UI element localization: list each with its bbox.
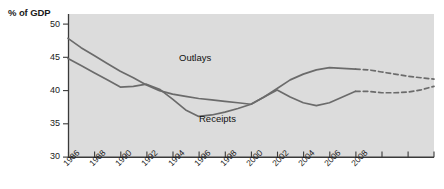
series-label-outlays: Outlays <box>179 52 211 63</box>
y-axis-title: % of GDP <box>8 7 50 18</box>
chart-figure: % of GDP 50 45 40 35 30 <box>0 0 444 189</box>
plot-area-background <box>68 14 434 157</box>
y-tick-label-45: 45 <box>34 52 60 62</box>
y-tick-label-30: 30 <box>34 151 60 161</box>
y-tick-label-35: 35 <box>34 118 60 128</box>
y-tick-marks <box>63 24 69 157</box>
series-label-receipts: Receipts <box>199 113 236 124</box>
y-tick-label-40: 40 <box>34 85 60 95</box>
y-tick-label-50: 50 <box>34 19 60 29</box>
